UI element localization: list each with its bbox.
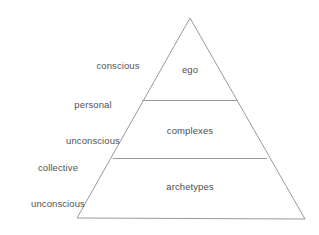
pyramid-level-label-complexes: complexes xyxy=(167,125,213,137)
pyramid-outer-label-conscious-line-1: conscious xyxy=(96,60,139,72)
pyramid-level-label-archetypes: archetypes xyxy=(166,181,213,193)
pyramid-diagram: ego complexes archetypes conscious perso… xyxy=(0,0,319,235)
pyramid-outer-label-collective-unconscious-line-2: unconscious xyxy=(31,198,85,210)
pyramid-outer-label-collective-unconscious-line-1: collective xyxy=(31,162,85,174)
pyramid-level-label-ego: ego xyxy=(182,64,198,76)
pyramid-outer-label-personal-unconscious-line-1: personal xyxy=(66,99,120,111)
pyramid-outer-label-collective-unconscious: collective unconscious xyxy=(31,138,85,234)
